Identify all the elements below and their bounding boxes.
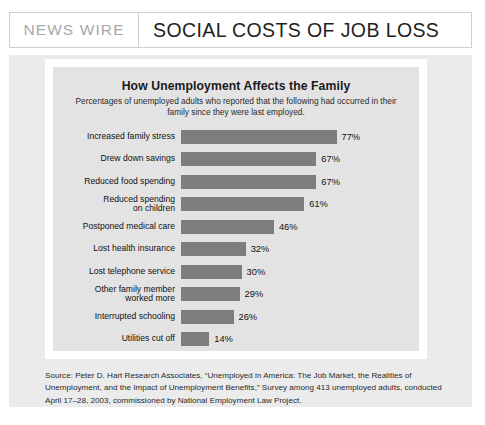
- bar-track: 32%: [181, 239, 407, 260]
- bar-track: 67%: [181, 171, 407, 192]
- news-wire-header: NEWS WIRE SOCIAL COSTS OF JOB LOSS: [9, 12, 472, 48]
- bar-value-label: 46%: [279, 222, 298, 232]
- bar-category-label: Interrupted schooling: [65, 312, 181, 322]
- bar-track: 30%: [181, 261, 407, 282]
- bar-chart-bars: Increased family stress77%Drew down savi…: [65, 126, 407, 350]
- source-note: Source: Peter D. Hart Research Associate…: [45, 370, 455, 407]
- bar-value-label: 67%: [321, 177, 340, 187]
- bar-fill: [181, 265, 242, 279]
- bar-fill: [181, 332, 209, 346]
- bar-value-label: 30%: [247, 267, 266, 277]
- bar-category-label: Lost telephone service: [65, 267, 181, 277]
- bar-category-label: Reduced spending on children: [65, 195, 181, 215]
- bar-fill: [181, 175, 316, 189]
- figure-panel: How Unemployment Affects the Family Perc…: [9, 55, 472, 407]
- bar-fill: [181, 220, 274, 234]
- bar-row: Utilities cut off14%: [65, 329, 407, 350]
- bar-value-label: 26%: [239, 312, 258, 322]
- bar-fill: [181, 197, 304, 211]
- bar-value-label: 29%: [245, 289, 264, 299]
- bar-category-label: Drew down savings: [65, 154, 181, 164]
- bar-track: 26%: [181, 306, 407, 327]
- bar-row: Postponed medical care46%: [65, 216, 407, 237]
- chart-subtitle: Percentages of unemployed adults who rep…: [65, 96, 407, 118]
- bar-row: Other family member worked more29%: [65, 284, 407, 305]
- header-kicker: NEWS WIRE: [10, 13, 139, 47]
- bar-track: 77%: [181, 126, 407, 147]
- bar-category-label: Increased family stress: [65, 132, 181, 142]
- bar-row: Reduced spending on children61%: [65, 194, 407, 215]
- bar-fill: [181, 242, 246, 256]
- bar-row: Reduced food spending67%: [65, 171, 407, 192]
- bar-fill: [181, 310, 234, 324]
- bar-value-label: 77%: [342, 132, 361, 142]
- bar-value-label: 67%: [321, 154, 340, 164]
- bar-row: Increased family stress77%: [65, 126, 407, 147]
- bar-value-label: 32%: [251, 244, 270, 254]
- chart-title: How Unemployment Affects the Family: [65, 79, 407, 93]
- chart-frame: How Unemployment Affects the Family Perc…: [45, 59, 427, 359]
- bar-fill: [181, 152, 316, 166]
- bar-track: 29%: [181, 284, 407, 305]
- bar-row: Lost telephone service30%: [65, 261, 407, 282]
- bar-track: 67%: [181, 149, 407, 170]
- bar-category-label: Utilities cut off: [65, 334, 181, 344]
- chart-area: How Unemployment Affects the Family Perc…: [53, 67, 419, 351]
- bar-category-label: Postponed medical care: [65, 222, 181, 232]
- bar-track: 61%: [181, 194, 407, 215]
- page-title: SOCIAL COSTS OF JOB LOSS: [139, 13, 471, 47]
- bar-value-label: 61%: [309, 199, 328, 209]
- bar-row: Lost health insurance32%: [65, 239, 407, 260]
- bar-category-label: Lost health insurance: [65, 244, 181, 254]
- bar-category-label: Reduced food spending: [65, 177, 181, 187]
- bar-row: Drew down savings67%: [65, 149, 407, 170]
- bar-fill: [181, 130, 337, 144]
- bar-value-label: 14%: [214, 334, 233, 344]
- bar-fill: [181, 287, 240, 301]
- bar-category-label: Other family member worked more: [65, 285, 181, 305]
- bar-track: 46%: [181, 216, 407, 237]
- bar-row: Interrupted schooling26%: [65, 306, 407, 327]
- bar-track: 14%: [181, 329, 407, 350]
